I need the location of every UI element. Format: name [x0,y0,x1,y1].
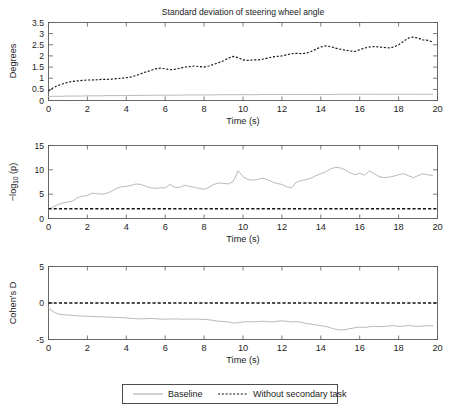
panel2-series-neglog-p [49,167,433,209]
panel3-ytick-0: -5 [36,335,44,345]
panel3-xtick-9: 18 [393,343,403,353]
panel1-series-baseline [49,94,433,96]
panel1-ytick-5: 2.5 [32,40,44,50]
panel3-xtick-4: 8 [202,343,207,353]
panel1-xtick-8: 16 [355,104,365,114]
panel1-xtick-6: 12 [277,104,287,114]
panel-cohens-d: -5 0 5 Cohen's D [8,262,443,366]
panel2-ytick-0: 0 [39,214,44,224]
panel1-frame [49,23,438,101]
panel2-ylabel-log: log [8,184,18,196]
panel1-xtick-7: 14 [316,104,326,114]
panel1-xtick-1: 2 [85,104,90,114]
panel1-xtick-0: 0 [46,104,51,114]
panel3-xlabel: Time (s) [226,355,259,365]
panel3-xtick-0: 0 [46,343,51,353]
panel1-ytick-0: 0 [39,96,44,106]
panel2-xtick-2: 4 [124,222,129,232]
panel1-xtick-9: 18 [393,104,403,114]
panel2-x-ticks [49,146,438,219]
panel2-xtick-5: 10 [238,222,248,232]
panel3-series-cohens-d [49,308,433,330]
panel1-xlabel: Time (s) [226,116,259,126]
panel2-ylabel: −log10 (p) [8,163,19,202]
figure-container: Standard deviation of steering wheel ang… [0,0,460,415]
panel3-xtick-1: 2 [85,343,90,353]
panel1-series-without-secondary-task [49,37,433,91]
panel2-xtick-7: 14 [316,222,326,232]
panel2-xtick-3: 6 [163,222,168,232]
panel3-xtick-10: 20 [432,343,442,353]
panel3-xtick-2: 4 [124,343,129,353]
multi-panel-chart: Standard deviation of steering wheel ang… [0,0,460,415]
panel1-ytick-7: 3.5 [32,18,44,28]
panel2-xtick-8: 16 [355,222,365,232]
panel1-ytick-4: 2 [39,51,44,61]
legend-label-baseline: Baseline [168,389,203,399]
panel1-xtick-2: 4 [124,104,129,114]
panel1-xtick-3: 6 [163,104,168,114]
panel1-ytick-6: 3 [39,29,44,39]
panel2-y-ticks [49,146,438,219]
panel2-xtick-10: 20 [432,222,442,232]
panel1-ylabel: Degrees [8,43,18,78]
panel2-xtick-0: 0 [46,222,51,232]
panel1-xtick-5: 10 [238,104,248,114]
panel3-ytick-2: 5 [39,262,44,272]
panel2-frame [49,146,438,219]
chart-title: Standard deviation of steering wheel ang… [162,7,325,17]
panel2-xtick-6: 12 [277,222,287,232]
panel3-xtick-8: 16 [355,343,365,353]
panel2-xtick-1: 2 [85,222,90,232]
panel2-ytick-1: 5 [39,189,44,199]
panel1-y-ticks [49,23,438,101]
panel2-ytick-2: 10 [34,165,44,175]
panel2-ylabel-p: (p) [8,163,18,177]
panel3-xtick-7: 14 [316,343,326,353]
legend: Baseline Without secondary task [123,385,348,404]
svg-text:−log10 (p): −log10 (p) [8,163,19,202]
panel3-ylabel: Cohen's D [8,281,18,324]
panel1-xtick-4: 8 [202,104,207,114]
legend-label-without-secondary-task: Without secondary task [253,389,347,399]
panel1-x-ticks [49,23,438,101]
panel1-ytick-3: 1.5 [32,62,44,72]
panel3-xtick-3: 6 [163,343,168,353]
panel-steering-deviation: Standard deviation of steering wheel ang… [8,7,443,126]
panel3-xtick-6: 12 [277,343,287,353]
panel2-xlabel: Time (s) [226,234,259,244]
panel2-xtick-9: 18 [393,222,403,232]
panel2-xtick-4: 8 [202,222,207,232]
panel-neglog-p: 0 5 10 15 −log10 (p) [8,141,443,245]
panel1-xtick-10: 20 [432,104,442,114]
panel2-ytick-3: 15 [34,141,44,151]
panel1-ytick-1: 0.5 [32,84,44,94]
panel1-ytick-2: 1 [39,73,44,83]
panel3-ytick-1: 0 [39,298,44,308]
panel3-xtick-5: 10 [238,343,248,353]
